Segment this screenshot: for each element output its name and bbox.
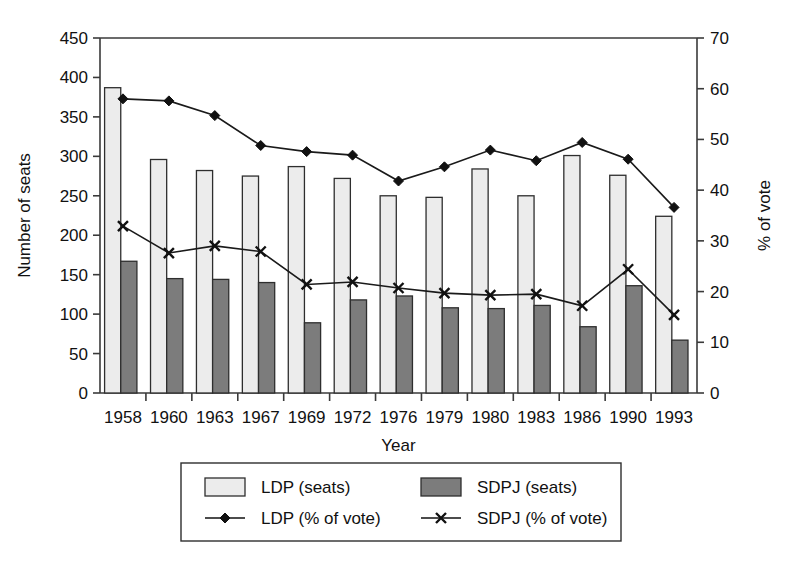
- x-axis-category-label: 1967: [242, 408, 280, 427]
- y-axis-right-tick-label: 70: [710, 29, 729, 48]
- legend-swatch: [421, 478, 461, 496]
- marker-ldp-diamond: [256, 141, 266, 151]
- marker-ldp-diamond: [531, 156, 541, 166]
- bar-sdpj-seats: [626, 286, 642, 393]
- marker-ldp-diamond: [394, 176, 404, 186]
- legend-entry-label: SDPJ (seats): [477, 478, 577, 497]
- bar-sdpj-seats: [167, 279, 183, 393]
- bar-sdpj-seats: [442, 308, 458, 393]
- y-axis-right-tick-label: 60: [710, 80, 729, 99]
- x-axis-category-label: 1990: [609, 408, 647, 427]
- election-results-combo-chart: 0501001502002503003504004500102030405060…: [0, 0, 801, 568]
- chart-container: 0501001502002503003504004500102030405060…: [0, 0, 801, 568]
- bar-ldp-seats: [242, 176, 258, 393]
- y-axis-right-tick-label: 20: [710, 283, 729, 302]
- x-axis-category-label: 1960: [150, 408, 188, 427]
- bar-ldp-seats: [196, 171, 212, 393]
- bar-sdpj-seats: [672, 340, 688, 393]
- y-axis-left-tick-label: 300: [60, 147, 88, 166]
- x-axis-category-label: 1969: [288, 408, 326, 427]
- y-axis-left-tick-label: 150: [60, 266, 88, 285]
- x-axis-category-label: 1979: [426, 408, 464, 427]
- bar-sdpj-seats: [259, 283, 275, 393]
- bar-sdpj-seats: [213, 279, 229, 393]
- legend-box: [181, 463, 621, 541]
- marker-ldp-diamond: [302, 147, 312, 157]
- y-axis-left-title: Number of seats: [15, 153, 34, 278]
- y-axis-left-tick-label: 200: [60, 226, 88, 245]
- bar-sdpj-seats: [121, 261, 137, 393]
- x-axis-title: Year: [381, 436, 416, 455]
- bar-ldp-seats: [426, 197, 442, 393]
- marker-ldp-diamond: [210, 111, 220, 121]
- bar-ldp-seats: [564, 156, 580, 393]
- y-axis-right-tick-label: 0: [710, 384, 719, 403]
- bar-sdpj-seats: [350, 300, 366, 393]
- bar-ldp-seats: [610, 175, 626, 393]
- x-axis-category-label: 1972: [334, 408, 372, 427]
- y-axis-left-tick-label: 50: [69, 345, 88, 364]
- y-axis-left-tick-label: 350: [60, 108, 88, 127]
- legend-entry-label: LDP (% of vote): [261, 509, 381, 528]
- marker-ldp-diamond: [577, 137, 587, 147]
- bar-ldp-seats: [472, 169, 488, 393]
- legend-swatch: [205, 478, 245, 496]
- y-axis-left-tick-label: 400: [60, 68, 88, 87]
- bar-sdpj-seats: [396, 296, 412, 393]
- bar-sdpj-seats: [580, 327, 596, 393]
- x-axis-category-label: 1976: [380, 408, 418, 427]
- bar-sdpj-seats: [488, 309, 504, 393]
- y-axis-left-tick-label: 100: [60, 305, 88, 324]
- bar-ldp-seats: [151, 159, 167, 393]
- bar-ldp-seats: [105, 88, 121, 393]
- y-axis-right-tick-label: 30: [710, 232, 729, 251]
- y-axis-right-tick-label: 40: [710, 181, 729, 200]
- legend-entry-label: SDPJ (% of vote): [477, 509, 607, 528]
- marker-ldp-diamond: [164, 96, 174, 106]
- x-axis-category-label: 1963: [196, 408, 234, 427]
- marker-ldp-diamond: [439, 162, 449, 172]
- x-axis-category-label: 1983: [517, 408, 555, 427]
- x-axis-category-label: 1986: [563, 408, 601, 427]
- marker-ldp-diamond: [485, 145, 495, 155]
- bar-sdpj-seats: [304, 323, 320, 393]
- y-axis-left-tick-label: 450: [60, 29, 88, 48]
- y-axis-left-tick-label: 250: [60, 187, 88, 206]
- marker-ldp-diamond: [348, 150, 358, 160]
- y-axis-left-tick-label: 0: [79, 384, 88, 403]
- x-axis-category-label: 1993: [655, 408, 693, 427]
- x-axis-category-label: 1980: [471, 408, 509, 427]
- y-axis-right-tick-label: 50: [710, 130, 729, 149]
- legend-entry-label: LDP (seats): [261, 478, 350, 497]
- y-axis-right-title: % of vote: [755, 180, 774, 251]
- x-axis-category-label: 1958: [104, 408, 142, 427]
- y-axis-right-tick-label: 10: [710, 333, 729, 352]
- bar-sdpj-seats: [534, 305, 550, 393]
- bar-ldp-seats: [380, 196, 396, 393]
